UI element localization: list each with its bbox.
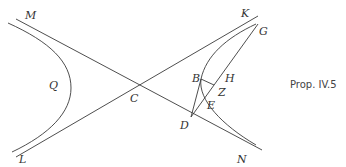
- label-k: K: [240, 7, 250, 20]
- label-n: N: [236, 153, 247, 166]
- label-z: Z: [217, 86, 226, 99]
- label-e: E: [206, 99, 215, 112]
- segment-bz: [201, 79, 214, 85]
- label-d: D: [179, 119, 189, 132]
- left-hyperbola-branch: [8, 23, 71, 152]
- label-c: C: [130, 92, 139, 105]
- label-g: G: [259, 25, 268, 38]
- label-m: M: [24, 9, 37, 22]
- segment-gd: [191, 24, 258, 117]
- label-q: Q: [49, 79, 58, 92]
- label-l: L: [18, 153, 26, 166]
- figure-caption: Prop. IV.5: [290, 79, 337, 90]
- label-b: B: [191, 72, 200, 85]
- label-h: H: [224, 72, 235, 85]
